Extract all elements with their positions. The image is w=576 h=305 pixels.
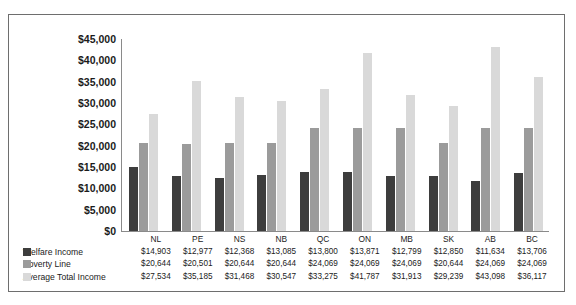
- table-column-header: PE: [177, 233, 219, 246]
- table-cell: $14,903: [135, 246, 177, 259]
- bar: [215, 178, 224, 231]
- bar-group: [255, 39, 298, 231]
- bar: [353, 128, 362, 231]
- table-cell: $33,275: [302, 271, 344, 284]
- table-cell: $36,117: [511, 271, 553, 284]
- bar: [363, 53, 372, 231]
- bar: [257, 175, 266, 231]
- legend-swatch-icon: [23, 260, 31, 268]
- table-row: Poverty Line$20,644$20,501$20,644$20,644…: [23, 258, 553, 271]
- table-column-header: NS: [219, 233, 261, 246]
- bar-group: [127, 39, 170, 231]
- bar: [524, 128, 533, 231]
- x-axis-line: [121, 231, 549, 232]
- bar-group: [341, 39, 384, 231]
- table-cell: $24,069: [386, 258, 428, 271]
- table-row: Welfare Income$14,903$12,977$12,368$13,0…: [23, 246, 553, 259]
- y-axis-tick-label: $45,000: [78, 33, 116, 45]
- bar: [396, 128, 405, 231]
- bar: [406, 95, 415, 231]
- legend-item: Average Total Income: [23, 271, 135, 284]
- table-column-header: MB: [386, 233, 428, 246]
- table-cell: $41,787: [344, 271, 386, 284]
- bar: [129, 167, 138, 231]
- table-column-header: NL: [135, 233, 177, 246]
- y-axis-tick-label: $35,000: [78, 76, 116, 88]
- table-cell: $24,069: [302, 258, 344, 271]
- table-column-header: QC: [302, 233, 344, 246]
- table-cell: $12,368: [219, 246, 261, 259]
- bar: [439, 143, 448, 231]
- bar: [429, 176, 438, 231]
- legend-label: Average Total Income: [23, 272, 106, 282]
- table-column-header: BC: [511, 233, 553, 246]
- table-cell: $27,534: [135, 271, 177, 284]
- plot-area: $0$5,000$10,000$15,000$20,000$25,000$30,…: [121, 39, 549, 231]
- legend-item: Welfare Income: [23, 246, 135, 259]
- table-cell: $24,069: [344, 258, 386, 271]
- table-cell: $24,069: [469, 258, 511, 271]
- table-cell: $12,799: [386, 246, 428, 259]
- bar: [182, 144, 191, 231]
- data-table: NLPENSNBQCONMBSKABBC Welfare Income$14,9…: [23, 233, 553, 283]
- y-axis-tick-label: $10,000: [78, 182, 116, 194]
- y-axis-tick-label: $5,000: [84, 204, 116, 216]
- bar-group: [427, 39, 470, 231]
- table-header-row: NLPENSNBQCONMBSKABBC: [23, 233, 553, 246]
- bar: [514, 173, 523, 231]
- bar: [449, 106, 458, 231]
- table-cell: $31,468: [219, 271, 261, 284]
- bar: [343, 172, 352, 231]
- table-cell: $13,706: [511, 246, 553, 259]
- table-cell: $12,850: [428, 246, 470, 259]
- table-column-header: AB: [469, 233, 511, 246]
- legend-label: Welfare Income: [23, 247, 83, 257]
- bar: [300, 172, 309, 231]
- table-column-header: NB: [260, 233, 302, 246]
- bar-group: [213, 39, 256, 231]
- table-cell: $12,977: [177, 246, 219, 259]
- bar-group: [170, 39, 213, 231]
- bar: [235, 97, 244, 231]
- bar: [386, 176, 395, 231]
- bar: [534, 77, 543, 231]
- table-cell: $20,644: [260, 258, 302, 271]
- y-axis-tick-label: $20,000: [78, 140, 116, 152]
- bar-group: [469, 39, 512, 231]
- y-axis-tick-label: $30,000: [78, 97, 116, 109]
- table-cell: $20,644: [428, 258, 470, 271]
- bar: [481, 128, 490, 231]
- bar: [192, 81, 201, 231]
- bar: [471, 181, 480, 231]
- bar: [310, 128, 319, 231]
- bar: [139, 143, 148, 231]
- table-cell: $20,501: [177, 258, 219, 271]
- table-cell: $20,644: [135, 258, 177, 271]
- table-cell: $24,069: [511, 258, 553, 271]
- table-cell: $20,644: [219, 258, 261, 271]
- table-cell: $13,085: [260, 246, 302, 259]
- table-cell: $43,098: [469, 271, 511, 284]
- legend-swatch-icon: [23, 273, 31, 281]
- table-cell: $35,185: [177, 271, 219, 284]
- y-axis-tick-label: $15,000: [78, 161, 116, 173]
- y-axis-line: [121, 39, 122, 231]
- table-corner-cell: [23, 233, 135, 246]
- table-cell: $29,239: [428, 271, 470, 284]
- bar-group: [298, 39, 341, 231]
- bar: [320, 89, 329, 231]
- table-body: Welfare Income$14,903$12,977$12,368$13,0…: [23, 246, 553, 284]
- chart-figure: $0$5,000$10,000$15,000$20,000$25,000$30,…: [8, 14, 565, 292]
- table-cell: $31,913: [386, 271, 428, 284]
- bar: [267, 143, 276, 231]
- bar: [491, 47, 500, 231]
- table-cell: $30,547: [260, 271, 302, 284]
- bar: [149, 114, 158, 231]
- table-cell: $13,800: [302, 246, 344, 259]
- bar: [225, 143, 234, 231]
- table-cell: $13,871: [344, 246, 386, 259]
- bar-group: [384, 39, 427, 231]
- table-row: Average Total Income$27,534$35,185$31,46…: [23, 271, 553, 284]
- y-axis-tick-label: $40,000: [78, 54, 116, 66]
- y-axis-tick-label: $25,000: [78, 118, 116, 130]
